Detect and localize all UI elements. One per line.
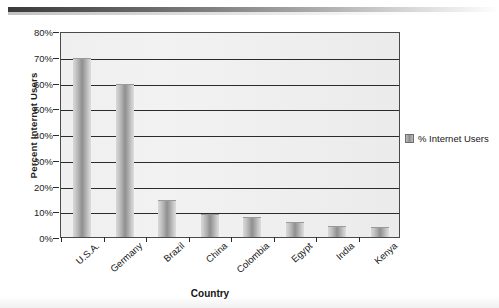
- bar: [201, 214, 219, 237]
- y-axis-tick-mark: [53, 135, 59, 136]
- y-axis-tick-mark: [53, 84, 59, 85]
- y-axis-tick-mark: [53, 58, 59, 59]
- bar: [116, 84, 134, 237]
- bar: [73, 58, 91, 237]
- gridline: [61, 59, 399, 60]
- x-axis-tick-label: Kenya: [372, 240, 399, 266]
- scan-bottom-artifact: [0, 296, 499, 308]
- bar-chart: Percent Internet Users 80%70%60%50%40%30…: [0, 0, 499, 308]
- gridline: [61, 85, 399, 86]
- x-axis-tick-label: China: [203, 240, 229, 265]
- bar: [158, 200, 176, 237]
- bar: [371, 227, 389, 237]
- y-axis-tick-mark: [53, 32, 59, 33]
- y-axis-tick-mark: [53, 187, 59, 188]
- y-axis-tick-marks: [0, 32, 60, 238]
- bar: [286, 222, 304, 237]
- x-axis-tick-label: U.S.A.: [74, 240, 102, 267]
- legend: % Internet Users: [405, 133, 489, 144]
- x-axis-tick-labels: U.S.A.GermanyBrazilChinaColombiaEgyptInd…: [60, 240, 400, 288]
- gridline: [61, 213, 399, 214]
- y-axis-tick-mark: [53, 212, 59, 213]
- gridline: [61, 188, 399, 189]
- x-axis-tick-label: India: [334, 240, 357, 262]
- x-axis-tick-label: Colombia: [234, 240, 271, 275]
- gridline: [61, 162, 399, 163]
- legend-label-internet-users: % Internet Users: [418, 133, 489, 144]
- gridline: [61, 110, 399, 111]
- plot-area: [60, 32, 400, 238]
- y-axis-tick-mark: [53, 161, 59, 162]
- x-axis-tick-label: Germany: [108, 240, 144, 274]
- y-axis-tick-mark: [53, 238, 59, 239]
- bar: [328, 226, 346, 237]
- x-axis-tick-label: Egypt: [289, 240, 314, 264]
- bar: [243, 217, 261, 237]
- gridline: [61, 136, 399, 137]
- legend-swatch-internet-users: [405, 134, 414, 143]
- y-axis-tick-mark: [53, 109, 59, 110]
- x-axis-tick-label: Brazil: [162, 240, 187, 264]
